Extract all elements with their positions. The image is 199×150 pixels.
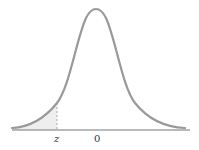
shaded-tail-region — [12, 103, 57, 130]
z-label: z — [53, 133, 60, 144]
normal-curve-diagram: z 0 — [0, 0, 199, 150]
bell-curve — [12, 9, 185, 128]
zero-label: 0 — [94, 133, 100, 144]
